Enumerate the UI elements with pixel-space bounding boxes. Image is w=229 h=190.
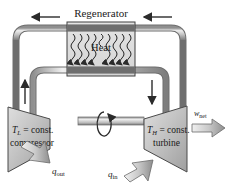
turbine-name: turbine	[153, 138, 180, 148]
heat-label: Heat	[91, 42, 111, 53]
work-net-label: wnet	[194, 109, 207, 119]
heat-in-arrow	[124, 160, 153, 182]
regenerator-title: Regenerator	[74, 7, 128, 19]
heat-in-label: qin	[108, 169, 118, 180]
work-net-arrow	[192, 119, 225, 137]
ericsson-cycle-diagram: Heat Regenerator TL = const. compressor …	[0, 0, 229, 190]
heat-out-label: qout	[52, 166, 65, 177]
